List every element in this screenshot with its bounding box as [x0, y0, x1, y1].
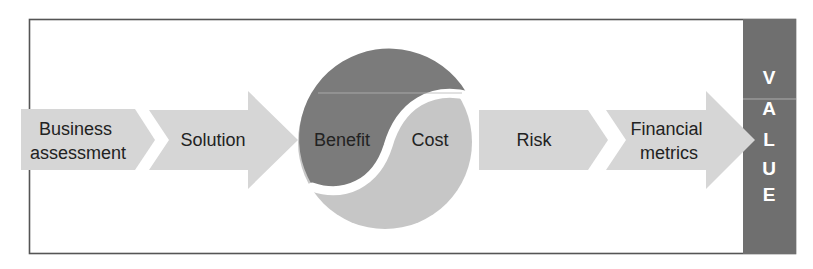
value-letter-v: V	[763, 67, 776, 88]
value-letter-u: U	[762, 158, 776, 179]
solution-label: Solution	[180, 130, 245, 150]
value-letter-l: L	[763, 129, 775, 150]
value-label: V A L U E	[762, 67, 776, 205]
risk-label: Risk	[517, 130, 553, 150]
cost-label: Cost	[411, 130, 448, 150]
value-flow-diagram: Business assessment Solution Benefit Cos…	[0, 0, 813, 269]
value-letter-a: A	[762, 98, 776, 119]
value-letter-e: E	[763, 184, 776, 205]
benefit-label: Benefit	[314, 130, 370, 150]
